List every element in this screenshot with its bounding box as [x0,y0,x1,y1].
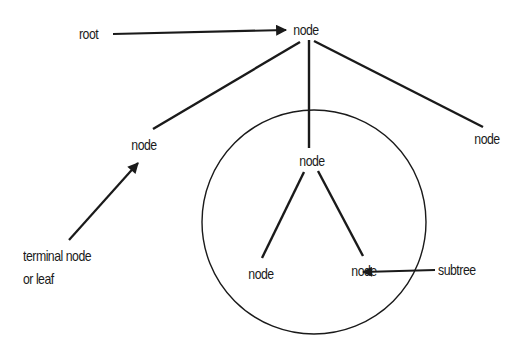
edge-root-right [314,41,483,127]
subtree-circle [202,110,426,334]
node-left-leaf: node [131,136,156,153]
leaf-annotation-line1: terminal node [23,247,91,264]
subtree-annotation: subtree [438,261,476,278]
leaf-annotation-line2: or leaf [23,270,54,287]
edge-middle-subtree-right [318,171,363,256]
node-subtree-left: node [248,265,273,282]
root-arrow [113,30,286,34]
node-subtree-right: node [351,262,376,279]
node-right-leaf: node [474,130,499,147]
tree-diagram-graphics [0,0,519,348]
tree-diagram: node node node node node node root termi… [0,0,519,348]
edge-middle-subtree-left [262,172,304,258]
node-middle: node [299,152,324,169]
node-root: node [293,21,318,38]
leaf-arrow [69,163,138,240]
root-annotation: root [79,25,98,42]
